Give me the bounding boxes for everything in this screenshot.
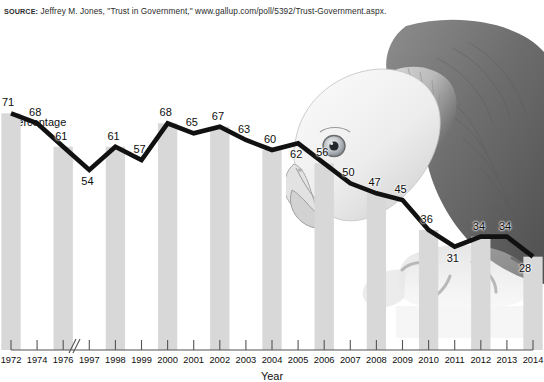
value-label-2000: 68 xyxy=(160,106,172,118)
source-text: Jeffrey M. Jones, "Trust in Government,"… xyxy=(41,6,387,16)
x-axis-svg xyxy=(0,336,544,356)
x-tick-label-2004: 2004 xyxy=(262,355,283,365)
value-label-2003: 63 xyxy=(238,123,250,135)
x-tick-label-1972: 1972 xyxy=(1,355,22,365)
bar-2004 xyxy=(262,150,281,350)
bar-2000 xyxy=(158,123,177,350)
value-label-2006: 56 xyxy=(316,146,328,158)
x-tick-label-2011: 2011 xyxy=(445,355,465,365)
x-tick-label-1976: 1976 xyxy=(53,355,74,365)
x-tick-label-2012: 2012 xyxy=(470,355,491,365)
source-note: SOURCE: Jeffrey M. Jones, "Trust in Gove… xyxy=(4,6,386,16)
value-label-1997: 54 xyxy=(81,175,93,187)
x-tick-label-2005: 2005 xyxy=(288,355,309,365)
value-label-2007: 50 xyxy=(342,166,354,178)
x-tick-label-2002: 2002 xyxy=(209,355,230,365)
x-tick-label-1998: 1998 xyxy=(105,355,126,365)
x-axis-ticks xyxy=(11,340,533,350)
plot-area: 7168615461576865676360625650474536313434… xyxy=(0,100,544,350)
value-label-1999: 57 xyxy=(134,143,146,155)
value-label-2011: 31 xyxy=(447,252,459,264)
bar-1976 xyxy=(54,147,73,350)
value-label-2010: 36 xyxy=(421,213,433,225)
value-label-1974: 68 xyxy=(29,106,41,118)
x-tick-label-1974: 1974 xyxy=(27,355,48,365)
bar-1972 xyxy=(1,113,20,350)
x-tick-label-2009: 2009 xyxy=(392,355,413,365)
value-label-1976: 61 xyxy=(55,130,67,142)
value-label-1972: 71 xyxy=(2,96,14,108)
chart-figure: SOURCE: Jeffrey M. Jones, "Trust in Gove… xyxy=(0,0,544,382)
value-label-2014: 28 xyxy=(519,262,531,274)
x-tick-label-2014: 2014 xyxy=(523,355,544,365)
source-label: SOURCE: xyxy=(4,7,38,16)
bar-2006 xyxy=(315,163,334,350)
x-tick-label-2013: 2013 xyxy=(497,355,518,365)
value-label-2002: 67 xyxy=(212,110,224,122)
x-tick-label-2007: 2007 xyxy=(340,355,361,365)
value-label-2004: 60 xyxy=(264,133,276,145)
x-tick-label-2003: 2003 xyxy=(236,355,257,365)
bar-1998 xyxy=(106,147,125,350)
x-tick-label-2000: 2000 xyxy=(157,355,178,365)
x-tick-label-2006: 2006 xyxy=(314,355,335,365)
value-label-2009: 45 xyxy=(395,183,407,195)
x-tick-label-2001: 2001 xyxy=(183,355,204,365)
x-tick-label-1999: 1999 xyxy=(131,355,152,365)
x-tick-label-1997: 1997 xyxy=(79,355,100,365)
value-label-2013: 34 xyxy=(499,220,511,232)
bar-2010 xyxy=(419,230,438,350)
value-label-2008: 47 xyxy=(368,176,380,188)
bar-2008 xyxy=(367,193,386,350)
axis-break-mark xyxy=(69,339,80,353)
value-label-2001: 65 xyxy=(186,116,198,128)
bar-2002 xyxy=(210,127,229,350)
value-label-2005: 62 xyxy=(290,148,302,160)
x-tick-label-2010: 2010 xyxy=(418,355,439,365)
x-axis-title: Year xyxy=(0,370,544,382)
bar-2012 xyxy=(471,237,490,350)
value-label-1998: 61 xyxy=(107,130,119,142)
value-label-2012: 34 xyxy=(473,220,485,232)
x-tick-label-2008: 2008 xyxy=(366,355,387,365)
